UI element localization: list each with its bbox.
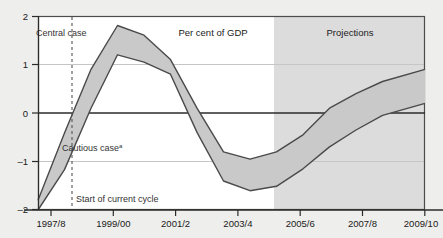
banner-per-cent-of-gdp: Per cent of GDP [178,27,247,38]
annotation-cautious-case: Cautious casea [62,143,123,154]
banner-projections: Projections [327,27,374,38]
x-tick-label-2005-6: 2005/6 [286,218,315,229]
y-tick-label-neg1: –1 [17,156,28,167]
y-tick-label-2: 2 [23,11,28,22]
x-tick-label-2003-4: 2003/4 [223,218,252,229]
x-tick-label-2009-10: 2009/10 [404,218,438,229]
chart-figure: 2 1 0 –1 –2 1997/8 1999/00 2001/2 2003/4… [0,0,443,238]
x-tick-label-1999-00: 1999/00 [96,218,130,229]
y-tick-label-0: 0 [23,108,28,119]
x-tick-label-2007-8: 2007/8 [348,218,377,229]
y-tick-label-1: 1 [23,59,28,70]
x-tick-label-2001-2: 2001/2 [161,218,190,229]
annotation-central-case: Central case [36,28,87,38]
x-tick-label-1997-8: 1997/8 [36,218,65,229]
annotation-cautious-case-text: Cautious case [62,143,119,153]
annotation-cycle-start: Start of current cycle [76,194,159,204]
